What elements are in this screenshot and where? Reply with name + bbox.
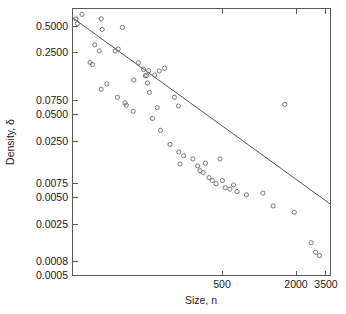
scatter-point [131,109,135,113]
y-tick-label: 0.0250 [36,135,68,147]
scatter-point [176,104,180,108]
scatter-point [105,82,109,86]
scatter-point [153,73,157,77]
x-axis-title: Size, n [185,294,217,306]
scatter-point [244,193,248,197]
scatter-point [309,241,313,245]
scatter-point [235,189,239,193]
scatter-point [158,128,162,132]
scatter-point [132,78,136,82]
scatter-point [292,210,296,214]
regression-fit-line [73,18,331,204]
scatter-point [99,87,103,91]
y-axis-tickmarks [73,27,78,262]
y-tick-label: 0.0025 [36,218,68,230]
scatter-point [271,204,275,208]
scatter-point [172,95,176,99]
scatter-point [313,250,317,254]
scatter-point [261,191,265,195]
scatter-point [177,150,181,154]
plot-frame [73,9,331,276]
scatter-point [223,186,227,190]
figure-container: 0.5000 0.2500 0.0750 0.0500 0.0250 0.007… [0,0,346,314]
scatter-point [75,21,79,25]
y-axis-title: Density, δ [4,119,16,165]
scatter-point [191,157,195,161]
y-tick-label: 0.0075 [36,177,68,189]
scatter-point [196,164,200,168]
x-tick-label: 3500 [314,278,338,290]
scatter-point [220,178,224,182]
x-tick-label: 2000 [284,278,308,290]
scatter-point [99,17,103,21]
scatter-point [80,12,84,16]
scatter-point [283,102,287,106]
y-tick-label: 0.0050 [36,191,68,203]
scatter-point [162,66,166,70]
scatter-point [100,27,104,31]
scatter-point [228,187,232,191]
scatter-point [147,90,151,94]
y-tick-label: 0.0008 [36,255,68,267]
scatter-point [168,142,172,146]
y-tick-label: 0.2500 [36,46,68,58]
scatter-point [218,157,222,161]
y-tick-label: 0.5000 [36,20,68,32]
scatter-point [136,61,140,65]
scatter-plot-canvas: 0.5000 0.2500 0.0750 0.0500 0.0250 0.007… [0,0,346,314]
y-tick-label: 0.0500 [36,108,68,120]
y-tick-label: 0.0750 [36,94,68,106]
scatter-point [182,154,186,158]
y-tick-label: 0.0005 [36,269,68,281]
scatter-point [155,106,159,110]
scatter-point [231,183,235,187]
x-axis-tickmarks [223,9,326,276]
scatter-point [120,25,124,29]
scatter-point [203,161,207,165]
scatter-point [157,69,161,73]
scatter-point [93,43,97,47]
scatter-points-group [74,12,322,257]
x-tick-label: 500 [213,278,231,290]
scatter-point [97,49,101,53]
scatter-point [214,182,218,186]
scatter-point [317,254,321,258]
scatter-point [150,116,154,120]
x-axis-tick-labels: 500 2000 3500 [213,278,338,290]
scatter-point [145,81,149,85]
scatter-point [178,162,182,166]
scatter-point [115,95,119,99]
scatter-point [210,178,214,182]
y-axis-tick-labels: 0.5000 0.2500 0.0750 0.0500 0.0250 0.007… [36,20,68,281]
scatter-point [147,69,151,73]
